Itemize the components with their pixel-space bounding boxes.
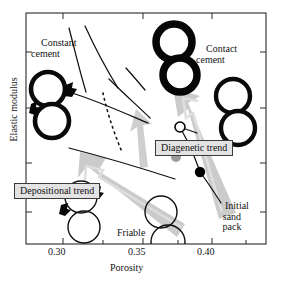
annotation-friable: Friable: [107, 217, 145, 249]
y-axis-title: Elastic modulus: [9, 71, 20, 147]
annotation-initial-sand-pack: Initial sand pack: [215, 190, 249, 244]
xtick-label-1: 0.35: [128, 247, 146, 258]
diagenetic-trend-label: Diagenetic trend: [155, 140, 233, 156]
marker-contact-cement-onset: [175, 122, 185, 132]
annotation-constant-cement: Constant cement: [31, 27, 77, 70]
annotation-contact-cement: Contact cement: [196, 33, 237, 76]
rock-physics-figure: Constant cement Contact cement Friable I…: [0, 0, 295, 284]
x-axis-title: Porosity: [110, 263, 143, 274]
depositional-trend-label: Depositional trend: [14, 183, 100, 199]
marker-initial-sand-pack: [195, 167, 205, 177]
xtick-label-2: 0.40: [197, 247, 215, 258]
contact-cement-grains: [156, 24, 197, 92]
xtick-label-0: 0.30: [48, 247, 66, 258]
